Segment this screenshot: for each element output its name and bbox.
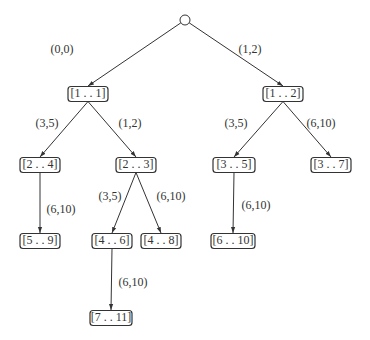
node-label: [4 . . 8] — [144, 233, 179, 247]
node-label: [2 . . 4] — [23, 157, 58, 171]
edge-label: (3,5) — [225, 116, 248, 130]
tree-node: [3 . . 7] — [311, 157, 351, 172]
node-label: [3 . . 7] — [314, 157, 349, 171]
node-label: [2 . . 3] — [119, 157, 154, 171]
edge-label: (6,10) — [119, 275, 148, 289]
node-label: [1 . . 1] — [71, 86, 106, 100]
edge-n23-n46 — [112, 173, 136, 234]
node-label: [5 . . 9] — [23, 233, 58, 247]
edge-label: (3,5) — [99, 189, 122, 203]
edge-label: (0,0) — [51, 42, 74, 56]
tree-node: [7 . . 11] — [90, 310, 132, 325]
edge-n46-n711 — [111, 249, 112, 311]
tree-node: [2 . . 3] — [116, 157, 156, 172]
edge-root-n12 — [189, 23, 283, 86]
tree-node: [2 . . 4] — [20, 157, 60, 172]
edge-label: (6,10) — [242, 198, 271, 212]
tree-node: [5 . . 9] — [20, 233, 60, 248]
tree-diagram: (0,0)(1,2)(3,5)(1,2)(3,5)(6,10)(6,10)(3,… — [0, 0, 370, 340]
node-label: [3 . . 5] — [217, 157, 252, 171]
tree-node: [4 . . 6] — [92, 233, 132, 248]
node-label: [1 . . 2] — [266, 86, 301, 100]
tree-node: [1 . . 2] — [263, 86, 303, 101]
node-label: [4 . . 6] — [95, 233, 130, 247]
edge-label: (3,5) — [36, 116, 59, 130]
edges-layer — [40, 23, 331, 310]
edge-n35-n610 — [233, 173, 234, 234]
tree-node: [1 . . 1] — [68, 86, 108, 101]
edge-label: (1,2) — [119, 116, 142, 130]
edge-label: (6,10) — [157, 189, 186, 203]
node-label: [7 . . 11] — [91, 310, 132, 324]
tree-node: [4 . . 8] — [141, 233, 181, 248]
edge-label: (1,2) — [239, 42, 262, 56]
edge-labels-layer: (0,0)(1,2)(3,5)(1,2)(3,5)(6,10)(6,10)(3,… — [36, 42, 336, 289]
node-label: [6 . . 10] — [213, 233, 254, 247]
edge-n23-n48 — [136, 173, 161, 234]
edge-root-n11 — [88, 23, 181, 86]
edge-label: (6,10) — [47, 202, 76, 216]
edge-label: (6,10) — [307, 116, 336, 130]
root-node — [180, 15, 190, 25]
tree-node: [3 . . 5] — [213, 157, 255, 172]
nodes-layer: [1 . . 1][1 . . 2][2 . . 4][2 . . 3][3 .… — [20, 15, 351, 326]
tree-node: [6 . . 10] — [211, 233, 255, 248]
